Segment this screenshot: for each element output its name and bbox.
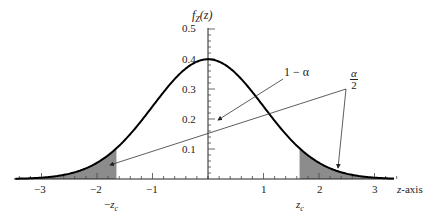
ylabel-argument: (z)	[200, 8, 213, 22]
zc-subscript: c	[115, 204, 119, 213]
xtick-label-neg1: −1	[146, 184, 158, 195]
ytick-label-0.5: 0.5	[182, 23, 196, 34]
one-minus-alpha-label: 1 − α	[284, 66, 309, 78]
x-axis-label: z-axis	[397, 184, 423, 195]
alpha-half-right-arrow	[338, 89, 346, 168]
zc-subscript: c	[300, 204, 304, 213]
alpha-denominator: 2	[350, 80, 358, 91]
one-minus-alpha-arrow	[218, 79, 283, 120]
xtick-label-neg3: −3	[34, 184, 46, 195]
ytick-label-0.3: 0.3	[182, 84, 196, 95]
ytick-label-0.2: 0.2	[182, 114, 196, 125]
xtick-label-neg2: −2	[90, 184, 102, 195]
ytick-label-0.4: 0.4	[182, 54, 196, 65]
alpha-half-left-arrow	[110, 89, 346, 165]
positive-critical-value-label: zc	[296, 199, 304, 213]
normal-distribution-figure	[0, 0, 433, 217]
xtick-label-2: 2	[317, 184, 323, 195]
alpha-half-label: α 2	[350, 68, 358, 91]
negative-critical-value-label: −zc	[104, 199, 118, 213]
ytick-label-0.1: 0.1	[182, 144, 196, 155]
xtick-label-1: 1	[261, 184, 267, 195]
xtick-label-3: 3	[372, 184, 378, 195]
normal-density-curve	[15, 59, 394, 178]
y-axis-ticks	[208, 29, 215, 173]
